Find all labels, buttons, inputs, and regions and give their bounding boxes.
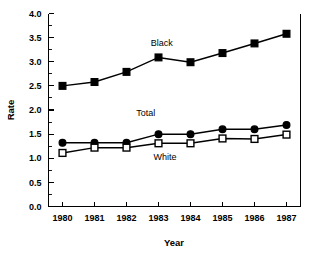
x-tick-label: 1982 — [116, 213, 136, 223]
datapoint-white-1984 — [187, 140, 194, 147]
datapoint-total-1985 — [219, 126, 226, 133]
datapoint-white-1987 — [283, 131, 290, 138]
x-tick-label: 1984 — [180, 213, 200, 223]
y-tick-label: 3.0 — [29, 57, 42, 67]
datapoint-black-1982 — [123, 68, 130, 75]
line-chart: 0.00.51.01.52.02.53.03.54.0 198019811982… — [0, 0, 314, 258]
chart-figure: 0.00.51.01.52.02.53.03.54.0 198019811982… — [0, 0, 314, 258]
y-tick-label: 1.0 — [29, 153, 42, 163]
datapoint-total-1980 — [59, 139, 66, 146]
datapoint-total-1984 — [187, 131, 194, 138]
datapoint-total-1986 — [251, 126, 258, 133]
series-label-total: Total — [136, 108, 155, 118]
y-axis-tick-labels: 0.00.51.01.52.02.53.03.54.0 — [29, 9, 42, 212]
y-tick-label: 4.0 — [29, 9, 42, 19]
series-label-white: White — [153, 152, 176, 162]
datapoint-white-1982 — [123, 144, 130, 151]
y-tick-label: 3.5 — [29, 33, 42, 43]
datapoint-total-1987 — [283, 122, 290, 129]
x-tick-label: 1985 — [212, 213, 232, 223]
datapoint-white-1981 — [91, 144, 98, 151]
y-tick-label: 1.5 — [29, 129, 42, 139]
datapoint-black-1987 — [283, 30, 290, 37]
x-tick-label: 1987 — [276, 213, 296, 223]
y-tick-label: 2.0 — [29, 105, 42, 115]
x-tick-label: 1986 — [244, 213, 264, 223]
datapoint-black-1983 — [155, 54, 162, 61]
datapoint-black-1981 — [91, 79, 98, 86]
x-axis-title: Year — [164, 237, 184, 248]
datapoint-white-1985 — [219, 135, 226, 142]
x-tick-label: 1983 — [148, 213, 168, 223]
datapoint-black-1985 — [219, 50, 226, 57]
y-tick-label: 0.5 — [29, 178, 42, 188]
datapoint-total-1983 — [155, 131, 162, 138]
x-tick-label: 1980 — [52, 213, 72, 223]
y-tick-label: 0.0 — [29, 202, 42, 212]
y-tick-label: 2.5 — [29, 81, 42, 91]
datapoint-white-1983 — [155, 140, 162, 147]
series-label-black: Black — [151, 38, 174, 48]
datapoint-black-1984 — [187, 59, 194, 66]
datapoint-white-1980 — [59, 150, 66, 157]
datapoint-white-1986 — [251, 136, 258, 143]
y-axis-title: Rate — [5, 100, 16, 121]
datapoint-black-1986 — [251, 40, 258, 47]
datapoint-black-1980 — [59, 82, 66, 89]
x-tick-label: 1981 — [84, 213, 104, 223]
